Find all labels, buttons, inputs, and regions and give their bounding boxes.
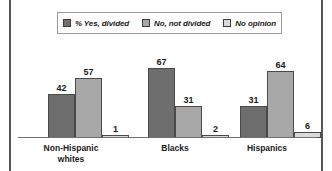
x-axis-line [18, 137, 317, 138]
bar-slot: 31 [240, 44, 267, 138]
bar-value-label: 42 [56, 83, 66, 93]
legend-swatch-no-opinion [223, 19, 231, 27]
legend-item-no-opinion: No opinion [223, 19, 276, 28]
bar-slot: 2 [202, 44, 229, 138]
bar-slot: 42 [48, 44, 75, 138]
bar-slot: 1 [102, 44, 129, 138]
chart-legend: % Yes, divided No, not divided No opinio… [57, 12, 282, 34]
category-label-non-hispanic-whites: Non-Hispanic whites [16, 143, 126, 165]
legend-label-no-not-divided: No, not divided [154, 19, 210, 28]
bar [175, 106, 202, 138]
bar-value-label: 6 [305, 121, 310, 131]
bar-value-label: 31 [248, 95, 258, 105]
legend-item-yes-divided: % Yes, divided [63, 19, 129, 28]
category-label-line: whites [16, 154, 126, 165]
bar-group-blacks: 67 31 2 [148, 44, 229, 138]
legend-label-yes-divided: % Yes, divided [75, 19, 129, 28]
bar-value-label: 1 [113, 124, 118, 134]
bar-value-label: 31 [183, 95, 193, 105]
category-label-line: Non-Hispanic [16, 143, 126, 154]
bar-slot: 67 [148, 44, 175, 138]
bar [48, 94, 75, 138]
bar-value-label: 64 [275, 60, 285, 70]
plot-area: 42 57 1 67 31 2 [18, 44, 316, 138]
bar-group-hispanics: 31 64 6 [240, 44, 321, 138]
bar-value-label: 57 [83, 67, 93, 77]
legend-item-no-not-divided: No, not divided [142, 19, 210, 28]
bar [148, 68, 175, 138]
legend-label-no-opinion: No opinion [235, 19, 276, 28]
bar-group-non-hispanic-whites: 42 57 1 [48, 44, 129, 138]
bar-slot: 6 [294, 44, 321, 138]
category-label-line: Hispanics [212, 143, 322, 154]
category-label-hispanics: Hispanics [212, 143, 322, 154]
bar [75, 78, 102, 138]
legend-swatch-yes-divided [63, 19, 71, 27]
bar-slot: 57 [75, 44, 102, 138]
bar-value-label: 67 [156, 57, 166, 67]
left-frame-rule [9, 0, 11, 171]
bar-slot: 64 [267, 44, 294, 138]
bar-value-label: 2 [213, 124, 218, 134]
bar [267, 71, 294, 138]
bar [240, 106, 267, 138]
bar-slot: 31 [175, 44, 202, 138]
legend-swatch-no-not-divided [142, 19, 150, 27]
bar-chart: % Yes, divided No, not divided No opinio… [0, 0, 332, 171]
